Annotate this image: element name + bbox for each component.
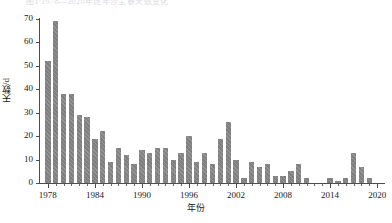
x-tick-minor xyxy=(228,184,229,186)
x-tick-minor xyxy=(213,184,214,186)
bar xyxy=(351,153,356,183)
bar xyxy=(155,148,160,183)
bar xyxy=(257,167,262,183)
x-tick-minor xyxy=(173,184,174,186)
bar xyxy=(280,176,285,183)
x-tick-minor xyxy=(252,184,253,186)
bar xyxy=(53,21,58,183)
x-tick-minor xyxy=(64,184,65,186)
bar xyxy=(296,164,301,183)
bar xyxy=(100,131,105,183)
x-tick-mark xyxy=(48,184,49,188)
bar xyxy=(218,139,223,184)
bar xyxy=(265,164,270,183)
bar xyxy=(124,155,129,183)
y-tick-mark xyxy=(36,160,40,161)
x-tick-label: 1990 xyxy=(133,190,151,201)
plot-area: 010203040506070 xyxy=(40,19,385,183)
x-tick-mark xyxy=(142,184,143,188)
bar xyxy=(186,136,191,183)
y-tick-label: 60 xyxy=(24,36,33,47)
x-tick-minor xyxy=(87,184,88,186)
x-tick-mark xyxy=(330,184,331,188)
bar xyxy=(359,167,364,183)
figure-caption: 图1 1978—2020年逐年沙尘暴天数变化 xyxy=(26,0,169,6)
x-tick-minor xyxy=(205,184,206,186)
x-tick-mark xyxy=(377,184,378,188)
y-tick-label: 70 xyxy=(24,13,33,24)
x-tick-label: 2008 xyxy=(274,190,292,201)
y-tick-mark xyxy=(36,183,40,184)
bar xyxy=(335,181,340,183)
bar xyxy=(327,178,332,183)
y-tick-label: 30 xyxy=(24,107,33,118)
y-tick-mark xyxy=(36,42,40,43)
bar xyxy=(77,115,82,183)
bar xyxy=(163,148,168,183)
x-tick-label: 1984 xyxy=(86,190,104,201)
x-tick-minor xyxy=(103,184,104,186)
bar xyxy=(171,160,176,183)
bar xyxy=(273,176,278,183)
bar xyxy=(210,164,215,183)
x-tick-minor xyxy=(134,184,135,186)
y-tick-mark xyxy=(36,89,40,90)
bar xyxy=(84,117,89,183)
x-tick-minor xyxy=(307,184,308,186)
y-tick-mark xyxy=(36,113,40,114)
x-tick-mark xyxy=(283,184,284,188)
x-tick-minor xyxy=(354,184,355,186)
bar xyxy=(233,160,238,183)
x-tick-minor xyxy=(150,184,151,186)
x-tick-minor xyxy=(158,184,159,186)
bar xyxy=(249,162,254,183)
bar xyxy=(45,61,50,183)
bar xyxy=(69,94,74,183)
cropped-caption-strip: 图1 1978—2020年逐年沙尘暴天数变化 xyxy=(0,0,392,8)
x-tick-minor xyxy=(361,184,362,186)
x-tick-mark xyxy=(95,184,96,188)
x-tick-minor xyxy=(338,184,339,186)
x-tick-minor xyxy=(299,184,300,186)
x-tick-minor xyxy=(260,184,261,186)
bar xyxy=(241,178,246,183)
y-tick-mark xyxy=(36,136,40,137)
x-tick-minor xyxy=(291,184,292,186)
x-tick-mark xyxy=(189,184,190,188)
bar xyxy=(108,162,113,183)
y-axis-label: 天数/d xyxy=(1,78,15,103)
x-tick-minor xyxy=(275,184,276,186)
y-tick-label: 20 xyxy=(24,130,33,141)
x-tick-minor xyxy=(197,184,198,186)
x-axis-label: 年份 xyxy=(0,203,392,214)
bar xyxy=(61,94,66,183)
y-tick-label: 40 xyxy=(24,83,33,94)
y-tick-mark xyxy=(36,66,40,67)
x-tick-mark xyxy=(236,184,237,188)
x-tick-minor xyxy=(111,184,112,186)
bar xyxy=(202,153,207,183)
chart-figure: 图1 1978—2020年逐年沙尘暴天数变化 天数/d 010203040506… xyxy=(0,0,392,223)
bar xyxy=(178,153,183,183)
y-tick-label: 10 xyxy=(24,154,33,165)
x-tick-minor xyxy=(267,184,268,186)
x-tick-minor xyxy=(56,184,57,186)
x-tick-label: 1996 xyxy=(180,190,198,201)
bar xyxy=(367,178,372,183)
x-tick-minor xyxy=(322,184,323,186)
x-tick-label: 1978 xyxy=(39,190,57,201)
x-tick-label: 2014 xyxy=(321,190,339,201)
bar xyxy=(194,162,199,183)
bar xyxy=(304,178,309,183)
bar xyxy=(92,139,97,184)
x-tick-label: 2020 xyxy=(368,190,386,201)
bar xyxy=(147,153,152,183)
y-tick-label: 0 xyxy=(29,177,34,188)
bar xyxy=(139,150,144,183)
y-tick-mark xyxy=(36,19,40,20)
x-tick-minor xyxy=(220,184,221,186)
x-tick-minor xyxy=(346,184,347,186)
bar xyxy=(131,164,136,183)
x-tick-minor xyxy=(314,184,315,186)
x-tick-minor xyxy=(79,184,80,186)
